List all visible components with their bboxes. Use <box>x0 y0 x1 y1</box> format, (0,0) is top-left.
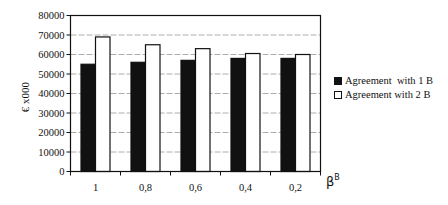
y-tick-label: 80000 <box>38 10 64 21</box>
y-tick-label: 60000 <box>38 49 64 60</box>
bar-agreement-2b <box>146 45 161 172</box>
y-tick-label: 50000 <box>38 69 64 80</box>
x-tick-label: 0,2 <box>289 182 302 193</box>
bar-agreement-1b <box>181 60 196 171</box>
x-tick-label: 1 <box>93 182 98 193</box>
bar-agreement-2b <box>196 49 211 172</box>
y-tick-label: 70000 <box>38 30 64 41</box>
bar-agreement-2b <box>96 37 111 172</box>
legend-label: Agreement with 1 B <box>345 74 433 88</box>
y-tick-label: 0 <box>59 166 64 177</box>
bar-agreement-2b <box>246 54 261 172</box>
legend: Agreement with 1 B Agreement with 2 B <box>334 74 433 102</box>
bars <box>81 37 310 172</box>
y-axis: 0100002000030000400005000060000700008000… <box>38 10 70 177</box>
bar-agreement-1b <box>131 62 146 171</box>
y-tick-label: 20000 <box>38 127 64 138</box>
legend-item-series-1: Agreement with 1 B <box>334 74 433 88</box>
y-tick-label: 10000 <box>38 147 64 158</box>
x-axis: 10,80,60,40,2 <box>71 172 321 194</box>
x-tick-label: 0,6 <box>189 182 202 193</box>
y-axis-label: € x000 <box>19 81 31 112</box>
legend-label: Agreement with 2 B <box>345 88 430 102</box>
x-tick-label: 0,4 <box>239 182 253 193</box>
legend-item-series-2: Agreement with 2 B <box>334 88 433 102</box>
bar-agreement-2b <box>296 55 311 172</box>
x-tick-label: 0,8 <box>139 182 152 193</box>
bar-agreement-1b <box>281 58 296 171</box>
bar-agreement-1b <box>81 64 96 171</box>
legend-swatch-black-icon <box>334 77 342 85</box>
bar-chart: 0100002000030000400005000060000700008000… <box>0 0 448 205</box>
y-tick-label: 30000 <box>38 108 64 119</box>
legend-swatch-white-icon <box>334 91 342 99</box>
y-tick-label: 40000 <box>38 88 64 99</box>
bar-agreement-1b <box>231 58 246 171</box>
x-axis-label: βB <box>326 173 340 189</box>
